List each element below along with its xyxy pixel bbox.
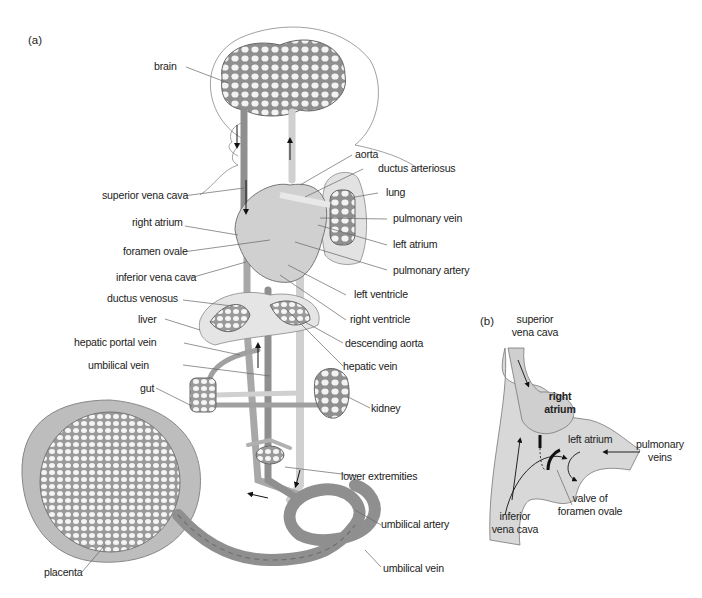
label-hepatic-portal-vein: hepatic portal vein xyxy=(74,336,156,349)
label-lung: lung xyxy=(386,186,405,199)
label-lower-extremities: lower extremities xyxy=(341,470,417,483)
label-inferior-vena-cava: inferior vena cava xyxy=(116,271,196,284)
label-right-atrium: right atrium xyxy=(132,216,183,229)
label-b-pulmonary-veins: pulmonary veins xyxy=(623,438,697,464)
label-liver: liver xyxy=(138,313,156,326)
gut xyxy=(190,378,216,412)
label-brain: brain xyxy=(154,60,177,73)
kidney xyxy=(314,368,349,418)
label-ductus-venosus: ductus venosus xyxy=(107,292,178,305)
label-umbilical-vein-lower: umbilical vein xyxy=(383,562,444,575)
panel-a-marker: (a) xyxy=(28,34,42,46)
label-left-ventricle: left ventricle xyxy=(354,288,408,301)
brain xyxy=(222,40,346,116)
label-left-atrium: left atrium xyxy=(393,238,437,251)
label-kidney: kidney xyxy=(371,402,400,415)
label-ductus-arteriosus: ductus arteriosus xyxy=(378,162,455,175)
label-b-right-atrium: right atrium xyxy=(537,390,583,416)
label-umbilical-vein-upper: umbilical vein xyxy=(88,359,149,372)
label-pulmonary-vein: pulmonary vein xyxy=(393,212,462,225)
label-aorta: aorta xyxy=(355,148,378,161)
label-superior-vena-cava: superior vena cava xyxy=(102,189,188,202)
label-foramen-ovale: foramen ovale xyxy=(123,245,188,258)
label-descending-aorta: descending aorta xyxy=(345,337,423,350)
label-pulmonary-artery: pulmonary artery xyxy=(393,264,469,277)
label-b-inferior-vena-cava: inferior vena cava xyxy=(483,510,547,536)
label-b-left-atrium: left atrium xyxy=(568,433,612,446)
umbilical-cord xyxy=(178,485,375,560)
label-hepatic-vein: hepatic vein xyxy=(343,360,397,373)
label-b-superior-vena-cava: superior vena cava xyxy=(503,313,567,339)
label-right-ventricle: right ventricle xyxy=(350,313,410,326)
lower-extremities-network xyxy=(256,446,284,464)
label-gut: gut xyxy=(140,382,154,395)
label-b-valve-of-foramen-ovale: valve of foramen ovale xyxy=(549,492,632,518)
label-placenta: placenta xyxy=(44,566,83,579)
label-umbilical-artery: umbilical artery xyxy=(381,518,449,531)
panel-b-marker: (b) xyxy=(480,315,494,327)
